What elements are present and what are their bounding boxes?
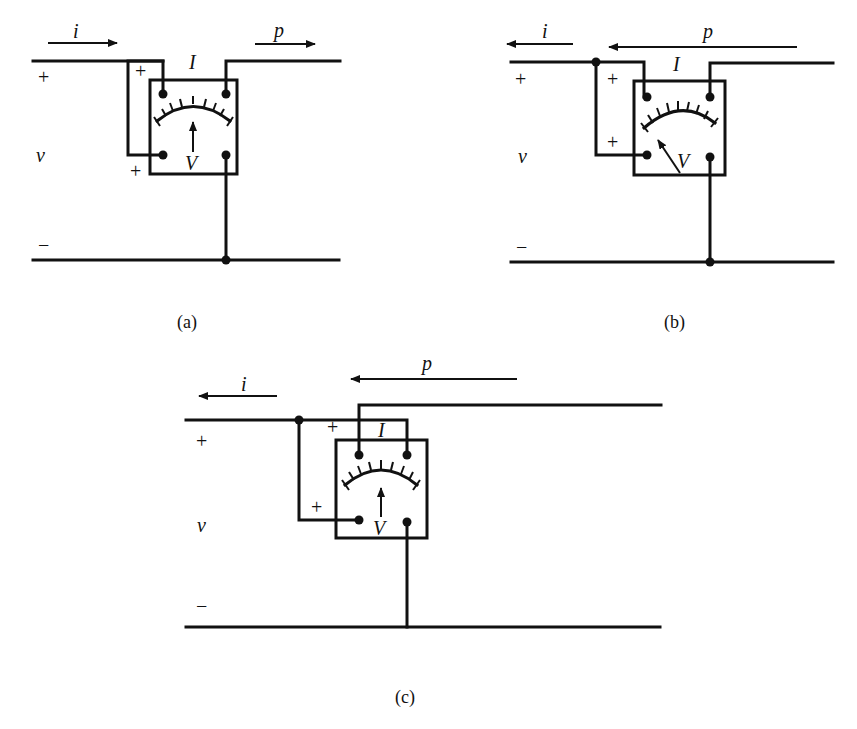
minus-sign: − — [516, 236, 527, 258]
minus-sign: − — [196, 595, 207, 617]
top-line-left — [186, 420, 407, 455]
terminal-dot — [222, 151, 231, 160]
terminal-dot — [643, 93, 652, 102]
plus-sign: + — [38, 66, 49, 88]
terminal-dot — [355, 451, 364, 460]
voltage-label: v — [518, 145, 527, 167]
terminal-dot — [403, 518, 412, 527]
top-line-right — [710, 63, 833, 97]
panel-b: i p — [507, 20, 833, 333]
terminal-dot — [159, 151, 168, 160]
current-label: i — [73, 20, 79, 42]
wattmeter-diagrams: i p — [0, 0, 857, 729]
junction-dot — [295, 416, 304, 425]
meter-voltage-label: V — [373, 517, 388, 539]
current-terminal-plus: + — [327, 416, 338, 438]
junction-dot — [706, 258, 715, 267]
current-terminal-plus: + — [607, 68, 618, 90]
voltage-terminal-plus: + — [607, 131, 618, 153]
top-line-left — [511, 62, 644, 97]
current-label: i — [542, 20, 548, 42]
terminal-dot — [403, 451, 412, 460]
power-label: p — [701, 20, 713, 43]
voltage-lead-wire — [596, 62, 647, 155]
voltage-terminal-plus: + — [311, 496, 322, 518]
meter-voltage-label: V — [185, 152, 200, 174]
meter-current-label: I — [377, 419, 386, 441]
current-terminal-plus: + — [135, 60, 146, 82]
terminal-dot — [222, 90, 231, 99]
voltage-label: v — [197, 514, 206, 536]
top-line-right — [226, 61, 340, 94]
meter-scale-arc — [345, 470, 417, 485]
power-label: p — [420, 352, 432, 375]
meter-voltage-label: V — [677, 150, 692, 172]
meter-scale-arc — [157, 107, 230, 122]
terminal-dot — [355, 516, 364, 525]
panel-a: i p — [33, 19, 340, 333]
junction-dot — [592, 58, 601, 67]
terminal-dot — [706, 153, 715, 162]
terminal-dot — [706, 93, 715, 102]
terminal-dot — [643, 151, 652, 160]
junction-dot — [222, 256, 231, 265]
meter-scale-ticks — [154, 96, 233, 126]
voltage-terminal-plus: + — [130, 160, 141, 182]
panel-c: i p — [186, 352, 661, 708]
plus-sign: + — [196, 430, 207, 452]
meter-scale-ticks — [342, 460, 420, 490]
current-label: i — [241, 373, 247, 395]
meter-scale-arc — [644, 111, 715, 128]
meter-current-label: I — [188, 51, 197, 73]
power-label: p — [272, 19, 284, 42]
meter-current-label: I — [672, 53, 681, 75]
caption-c: (c) — [395, 687, 415, 708]
caption-b: (b) — [664, 312, 685, 333]
terminal-dot — [159, 90, 168, 99]
top-line-right — [359, 405, 661, 455]
voltage-label: v — [36, 144, 45, 166]
plus-sign: + — [515, 68, 526, 90]
minus-sign: − — [38, 234, 49, 256]
caption-a: (a) — [177, 312, 197, 333]
